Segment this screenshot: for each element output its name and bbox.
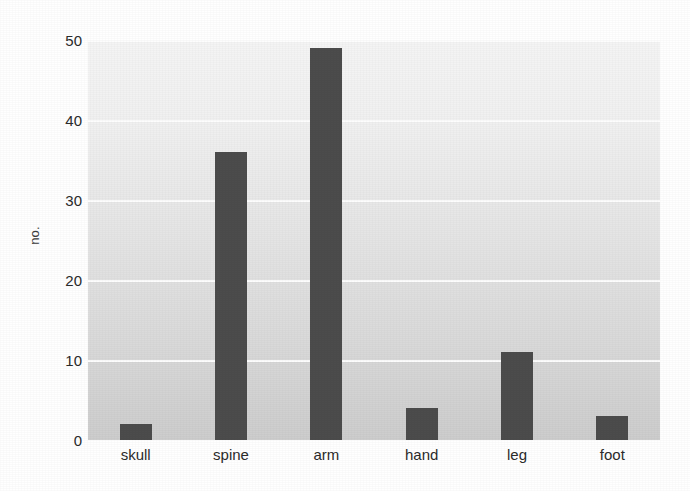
bar-leg	[501, 352, 533, 440]
x-tick-spine: spine	[181, 446, 281, 464]
x-axis-tick-labels: skull spine arm hand leg foot	[88, 446, 660, 470]
y-tick-20: 20	[46, 273, 82, 288]
x-tick-hand: hand	[372, 446, 472, 464]
x-tick-foot: foot	[562, 446, 662, 464]
y-axis-tick-labels: 50 40 30 20 10 0	[46, 0, 82, 491]
y-axis-label: no.	[24, 195, 44, 275]
bars-layer	[88, 40, 660, 440]
y-tick-10: 10	[46, 353, 82, 368]
y-tick-50: 50	[46, 33, 82, 48]
bar-arm	[310, 48, 342, 440]
bar-foot	[596, 416, 628, 440]
y-tick-30: 30	[46, 193, 82, 208]
x-tick-skull: skull	[86, 446, 186, 464]
bar-skull	[120, 424, 152, 440]
bar-hand	[406, 408, 438, 440]
bar-spine	[215, 152, 247, 440]
y-axis-label-text: no.	[26, 226, 41, 245]
bar-chart-figure: no. 50 40 30 20 10 0 skull spine arm han…	[0, 0, 690, 491]
x-tick-leg: leg	[467, 446, 567, 464]
y-tick-40: 40	[46, 113, 82, 128]
y-tick-0: 0	[46, 433, 82, 448]
x-tick-arm: arm	[276, 446, 376, 464]
plot-area	[88, 40, 660, 440]
